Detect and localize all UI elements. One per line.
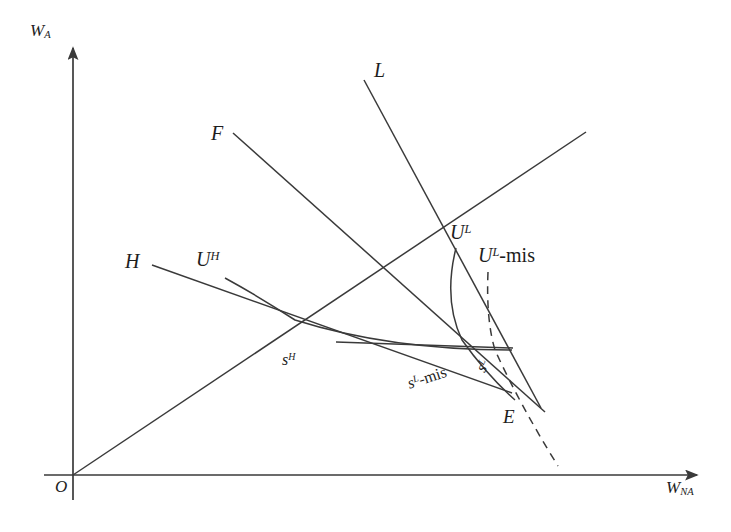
signaling-diagram-figure: WA WNA O F L H UH UL UL-mis sH sL sL-mis…: [0, 0, 731, 532]
label-curve-U-L: UL: [450, 222, 471, 242]
label-line-H: H: [125, 251, 139, 271]
label-point-s-H: sH: [282, 352, 295, 368]
curve-U-L-mis: [488, 272, 558, 466]
label-line-F: F: [211, 123, 223, 143]
y-axis-label: WA: [30, 22, 51, 41]
label-curve-U-L-mis: UL-mis: [478, 245, 535, 265]
origin-label: O: [55, 478, 67, 495]
x-axis-label: WNA: [666, 479, 694, 498]
label-curve-U-H: UH: [196, 249, 219, 269]
label-line-L: L: [374, 60, 385, 80]
curve-U-H: [225, 278, 512, 350]
line-F: [233, 133, 545, 412]
label-point-E: E: [503, 407, 515, 426]
diagram-canvas: [0, 0, 731, 532]
horizontal-segment: [336, 342, 513, 348]
